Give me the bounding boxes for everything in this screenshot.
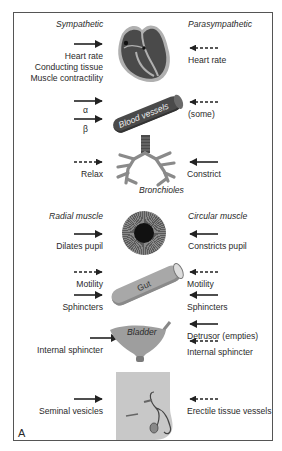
parasympathetic-arrow-dashed-icon (188, 44, 218, 52)
repro-para: Erectile tissue vessels (187, 406, 272, 416)
heart-symp-1: Heart rate (65, 51, 103, 61)
bladder-symp: Internal sphincter (37, 345, 103, 355)
panel-label: A (18, 428, 25, 438)
sympathetic-arrow-dashed-icon (74, 158, 104, 166)
parasympathetic-arrow-solid-icon (188, 158, 218, 166)
parasympathetic-arrow-solid-icon (188, 230, 218, 238)
sympathetic-arrow-solid-icon (74, 395, 104, 403)
sympathetic-arrow-solid-icon (74, 230, 104, 238)
parasympathetic-arrow-dashed-icon (188, 337, 218, 345)
heart-icon (114, 22, 172, 86)
parasympathetic-header: Parasympathetic (188, 19, 252, 29)
gut-para-1: Motility (187, 279, 214, 289)
sympathetic-arrow-solid-icon (74, 40, 104, 48)
beta-label: β (83, 124, 88, 134)
bladder-label: Bladder (127, 327, 157, 337)
parasympathetic-arrow-solid-icon (188, 291, 218, 299)
radial-muscle-header: Radial muscle (49, 211, 103, 221)
sympathetic-arrow-solid-icon (74, 291, 104, 299)
parasympathetic-arrow-dashed-icon (188, 98, 218, 106)
bladder-para-2: Internal sphincter (187, 347, 253, 357)
bronchioles-para: Constrict (187, 169, 221, 179)
gut-symp-1: Motility (76, 279, 103, 289)
heart-symp-2: Conducting tissue (35, 62, 103, 72)
beta-arrow-solid-icon (74, 115, 104, 123)
male-pelvis-icon (114, 372, 176, 441)
sympathetic-arrow-dashed-icon (74, 268, 104, 276)
eye-symp: Dilates pupil (56, 241, 103, 251)
heart-para-1: Heart rate (188, 55, 226, 65)
sympathetic-header: Sympathetic (56, 19, 103, 29)
alpha-label: α (83, 105, 88, 115)
gut-para-2: Sphincters (187, 302, 228, 312)
circular-muscle-header: Circular muscle (188, 211, 247, 221)
vessels-para-1: (some) (188, 109, 215, 119)
gut-label: Gut (136, 278, 153, 293)
parasympathetic-arrow-dashed-icon (188, 395, 218, 403)
parasympathetic-arrow-solid-icon (188, 320, 218, 328)
eye-para: Constricts pupil (188, 241, 247, 251)
bronchioles-label: Bronchioles (139, 185, 184, 195)
heart-symp-3: Muscle contractility (30, 73, 103, 83)
repro-symp: Seminal vesicles (39, 406, 103, 416)
parasympathetic-arrow-dashed-icon (188, 268, 218, 276)
iris-pupil-icon (122, 211, 166, 255)
alpha-arrow-solid-icon (74, 97, 104, 105)
gut-symp-2: Sphincters (62, 302, 103, 312)
bronchioles-symp: Relax (81, 169, 103, 179)
